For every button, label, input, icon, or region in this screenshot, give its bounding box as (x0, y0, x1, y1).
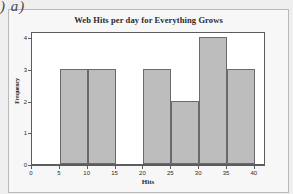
x-tick-label: 10 (83, 170, 90, 176)
x-tick-mark (87, 166, 88, 169)
x-tick-label: 15 (111, 170, 118, 176)
x-tick-mark (198, 166, 199, 169)
x-tick-mark (170, 166, 171, 169)
histogram-bar (199, 37, 227, 164)
x-tick-mark (254, 166, 255, 169)
x-tick-label: 30 (195, 170, 202, 176)
x-tick-mark (226, 166, 227, 169)
y-tick-mark (28, 70, 31, 71)
x-axis-label: Hits (31, 178, 265, 186)
y-tick-label: 2 (21, 99, 27, 105)
histogram-bar (88, 69, 116, 164)
y-tick-label: 4 (21, 35, 27, 41)
x-tick-mark (142, 166, 143, 169)
y-tick-label: 1 (21, 130, 27, 136)
y-tick-mark (28, 102, 31, 103)
x-tick-label: 20 (139, 170, 146, 176)
chart-title: Web Hits per day for Everything Grows (9, 15, 288, 25)
x-tick-mark (59, 166, 60, 169)
x-tick-mark (31, 166, 32, 169)
y-tick-label: 0 (21, 162, 27, 168)
y-tick-mark (28, 38, 31, 39)
histogram-bar (227, 69, 255, 164)
x-tick-mark (115, 166, 116, 169)
page-annotation: ) a) (0, 0, 25, 15)
x-tick-label: 25 (167, 170, 174, 176)
histogram-bar (143, 69, 171, 164)
x-tick-label: 0 (29, 170, 32, 176)
y-axis-label: Frequency (14, 66, 20, 116)
plot-frame (31, 32, 265, 165)
plot-area (32, 33, 264, 164)
x-axis-line (31, 165, 265, 166)
y-tick-mark (28, 165, 31, 166)
y-tick-mark (28, 133, 31, 134)
y-axis-line (31, 32, 32, 166)
y-tick-label: 3 (21, 67, 27, 73)
x-tick-label: 35 (223, 170, 230, 176)
x-tick-label: 5 (57, 170, 60, 176)
histogram-bar (60, 69, 88, 164)
x-tick-label: 40 (251, 170, 258, 176)
histogram-bar (171, 101, 199, 164)
chart-card: Web Hits per day for Everything Grows 05… (8, 9, 289, 193)
